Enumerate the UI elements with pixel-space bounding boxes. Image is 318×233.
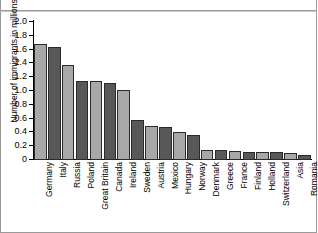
x-tick-label: Denmark [211,162,221,196]
bar [90,81,103,160]
bar [145,126,158,161]
bar [48,47,61,160]
x-tick-label: Poland [86,162,96,188]
bar [159,127,172,160]
bar [215,150,228,160]
y-tick-label: 0.2 [0,141,27,150]
immigrants-bar-chart-figure: Number of immigrants in millions 2.01.81… [0,0,317,233]
y-tick-label: 0 [0,155,27,164]
x-tick-label: Greece [225,162,235,190]
x-tick-label: Canada [114,162,124,192]
bar [173,132,186,160]
bar [256,152,269,160]
x-tick-label: Asia [295,162,305,179]
bar [131,120,144,160]
bar [34,44,47,160]
y-tick-label: 1.0 [0,86,27,95]
x-tick-label: Italy [58,162,68,178]
x-tick-label: Hungary [183,162,193,194]
bar [104,83,117,160]
bar [117,90,130,160]
x-tick-label: Mexico [170,162,180,189]
bar [62,65,75,160]
x-tick-label: Norway [197,162,207,191]
bar [229,151,242,160]
y-tick-label: 1.2 [0,72,27,81]
x-tick-label: Romania [309,162,317,196]
bar [187,135,200,160]
x-tick-label: Austria [156,162,166,188]
y-tick-label: 1.8 [0,31,27,40]
bar [243,152,256,160]
bar-series [34,16,312,160]
y-tick-label: 1.6 [0,45,27,54]
x-tick-label: France [239,162,249,188]
x-tick-label: Sweden [142,162,152,193]
x-tick-label: Great Britain [100,162,110,210]
bar [298,155,311,160]
bar [201,150,214,160]
y-tick-label: 1.4 [0,58,27,67]
x-tick-label: Holland [267,162,277,191]
bar [284,153,297,160]
x-tick-label: Germany [44,162,54,197]
y-tick-label: 2.0 [0,17,27,26]
x-tick-label: Ireland [128,162,138,188]
y-tick-label: 0.4 [0,127,27,136]
x-axis-labels: GermanyItalyRussiaPolandGreat BritainCan… [34,162,312,232]
bar [270,152,283,160]
y-tick-label: 0.8 [0,100,27,109]
x-tick-label: Finland [253,162,263,190]
x-tick-label: Switzerland [281,162,291,206]
y-tick-label: 0.6 [0,114,27,123]
x-tick-label: Russia [72,162,82,188]
bar [76,81,89,160]
